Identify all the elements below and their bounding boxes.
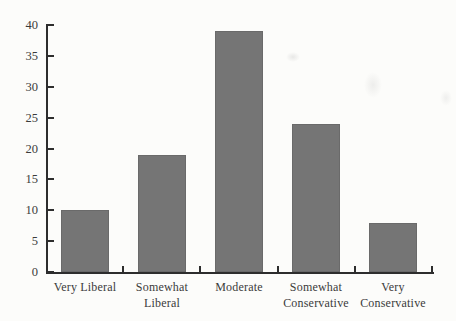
x-axis-label-somewhat-liberal: SomewhatLiberal [136,279,188,311]
x-axis-tick-1 [122,266,124,272]
y-axis-tick-40 [48,24,54,26]
y-axis-tick-30 [48,86,54,88]
scan-artifact [364,72,382,98]
x-axis-label-line: Very [360,279,426,295]
y-axis-tick-15 [48,178,54,180]
x-axis-label-line: Very Liberal [54,279,117,295]
y-axis-tick-label-25: 25 [8,110,38,126]
x-axis-label-somewhat-conservative: SomewhatConservative [283,279,349,311]
x-axis-label-very-conservative: VeryConservative [360,279,426,311]
y-axis-tick-5 [48,240,54,242]
scan-artifact [440,90,452,106]
y-axis-tick-label-5: 5 [8,233,38,249]
x-axis-label-line: Conservative [283,295,349,311]
y-axis-tick-10 [48,209,54,211]
x-axis-label-moderate: Moderate [215,279,263,295]
y-axis-tick-label-15: 15 [8,171,38,187]
y-axis-tick-0 [48,271,54,273]
y-axis-tick-20 [48,148,54,150]
x-axis-label-very-liberal: Very Liberal [54,279,117,295]
x-axis-label-line: Liberal [136,295,188,311]
x-axis-tick-3 [277,266,279,272]
x-axis-label-line: Moderate [215,279,263,295]
x-axis-label-line: Somewhat [283,279,349,295]
bar-somewhat-conservative [292,124,340,272]
y-axis-tick-label-30: 30 [8,79,38,95]
y-axis-tick-25 [48,117,54,119]
scan-artifact [286,52,300,62]
bar-somewhat-liberal [138,155,186,272]
y-axis-tick-label-35: 35 [8,48,38,64]
x-axis-tick-4 [354,266,356,272]
y-axis-tick-label-40: 40 [8,17,38,33]
bar-very-liberal [61,210,109,272]
x-axis-tick-5 [431,266,433,272]
x-axis-label-line: Somewhat [136,279,188,295]
x-axis-label-line: Conservative [360,295,426,311]
y-axis-tick-label-10: 10 [8,202,38,218]
y-axis-tick-35 [48,55,54,57]
y-axis-tick-label-20: 20 [8,141,38,157]
x-axis-tick-2 [199,266,201,272]
bar-chart-figure: 0510152025303540 Very LiberalSomewhatLib… [0,0,456,321]
bar-moderate [215,31,263,272]
x-axis [46,272,434,274]
y-axis-tick-label-0: 0 [8,264,38,280]
bar-very-conservative [369,223,417,272]
